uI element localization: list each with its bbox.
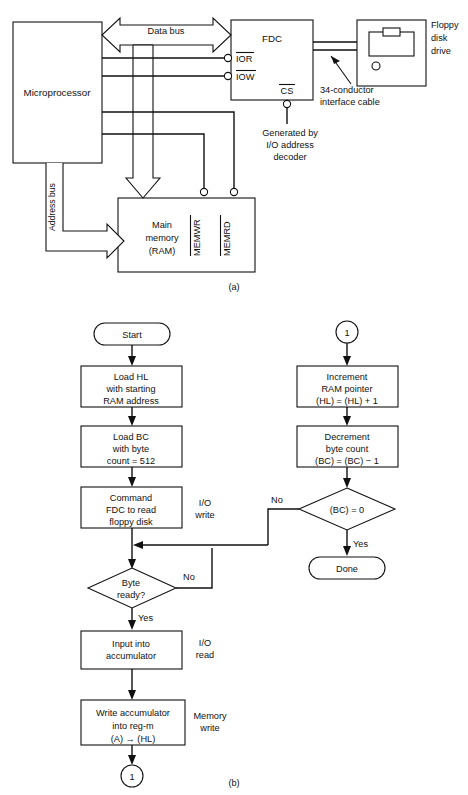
cable-callout-arrowhead [331,56,340,64]
arrowhead-write-to-connector [128,755,136,765]
label-main-memory-1: Main [152,220,172,230]
signal-memwr-group: MEMWR [191,215,203,256]
arrowhead-decrement-to-decision [343,478,351,488]
label-increment-3: (HL) = (HL) + 1 [316,396,378,406]
label-part-a: (a) [228,282,239,292]
label-input-acc-2: accumulator [106,651,156,661]
label-load-bc-1: Load BC [113,432,149,442]
label-io-read-2: read [196,650,214,660]
arrowhead-input-to-write [128,690,136,700]
label-main-memory-3: (RAM) [149,246,176,256]
label-done: Done [336,564,358,574]
label-memory-write-1: Memory [193,711,227,721]
label-connector-out: 1 [129,772,134,782]
label-load-bc-2: with byte [112,444,149,454]
label-cable-1: 34-conductor [320,85,374,95]
label-data-bus: Data bus [148,26,185,36]
arrowhead-loadbc-to-command [128,477,136,487]
label-input-acc-1: Input into [112,639,150,649]
label-io-read-1: I/O [199,638,211,648]
label-io-write-2: write [194,510,214,520]
label-no-bc-zero: No [271,495,283,505]
pin-iow-icon [224,72,231,79]
pin-memwr-icon [200,188,207,195]
arrowhead-start-to-loadhl [128,356,136,366]
flow-decision-byte-ready [88,568,176,608]
label-decrement-2: byte count [326,444,369,454]
data-bus-branch-to-memory [126,45,160,198]
label-write-acc-1: Write accumulator [96,708,170,718]
label-load-hl-3: RAM address [103,396,159,406]
branch-no-byte-ready [176,548,212,588]
label-decrement-1: Decrement [325,432,370,442]
label-address-bus: Address bus [47,183,57,231]
label-part-b: (b) [228,778,239,788]
label-memwr: MEMWR [192,219,202,256]
label-microprocessor: Microprocessor [24,87,92,98]
arrowhead-increment-to-decrement [343,416,351,426]
label-increment-1: Increment [327,372,368,382]
pin-memrd-icon [230,188,237,195]
label-io-write-1: I/O [199,498,211,508]
label-memrd: MEMRD [222,221,232,256]
label-increment-2: RAM pointer [321,384,372,394]
arrowhead-loadhl-to-loadbc [128,416,136,426]
label-bc-zero: (BC) = 0 [330,505,364,515]
label-cs-note-1: Generated by [262,128,318,138]
label-fdc: FDC [262,33,282,44]
label-iow: IOW [236,72,255,82]
floppy-slot-tab-icon [383,28,400,36]
label-write-acc-3: (A) → (HL) [111,734,155,744]
label-no-byte-ready: No [183,572,195,582]
floppy-button-icon [372,62,380,70]
label-memory-write-2: write [199,723,219,733]
address-bus-arrow [46,163,124,258]
label-floppy-1: Floppy [431,20,459,30]
figure-root: Microprocessor FDC Main memory (RAM) Flo… [0,0,468,795]
flow-node-input-accumulator [81,631,182,669]
label-cs-note-3: decoder [273,152,306,162]
label-load-bc-3: count = 512 [107,456,155,466]
label-start: Start [122,330,142,340]
label-byte-ready-2: ready? [117,590,145,600]
branch-no-bc-zero [268,509,299,545]
label-command-fdc-1: Command [110,493,152,503]
signal-ior-group: IOR [236,53,254,65]
label-load-hl-1: Load HL [114,372,149,382]
label-yes-byte-ready: Yes [138,613,153,623]
label-command-fdc-3: floppy disk [109,517,153,527]
label-cs: CS [281,86,294,96]
label-floppy-2: disk [431,33,448,43]
label-floppy-3: drive [431,46,451,56]
signal-cs-group: CS [279,85,295,97]
label-decrement-3: (BC) = (BC) − 1 [315,456,379,466]
line-memrd [102,112,234,188]
label-yes-bc-zero: Yes [353,539,368,549]
label-command-fdc-2: FDC to read [106,505,156,515]
arrowhead-merge-left [133,541,143,549]
signal-iow-group: IOW [236,71,256,83]
figure-canvas: Microprocessor FDC Main memory (RAM) Flo… [0,0,468,795]
label-cable-2: interface cable [320,97,380,107]
pin-cs-icon [283,100,290,107]
label-connector-in: 1 [344,328,349,338]
arrowhead-yes-bc-zero [343,546,351,556]
pin-ior-icon [224,54,231,61]
label-cs-note-2: I/O address [266,140,314,150]
label-ior: IOR [236,54,253,64]
arrowhead-connector-to-increment [343,356,351,366]
label-byte-ready-1: Byte [122,578,140,588]
label-write-acc-2: into reg-m [112,721,154,731]
label-main-memory-2: memory [145,233,179,243]
block-main-memory [118,198,255,272]
arrowhead-yes-byte-ready [128,620,136,630]
label-load-hl-2: with starting [105,384,155,394]
